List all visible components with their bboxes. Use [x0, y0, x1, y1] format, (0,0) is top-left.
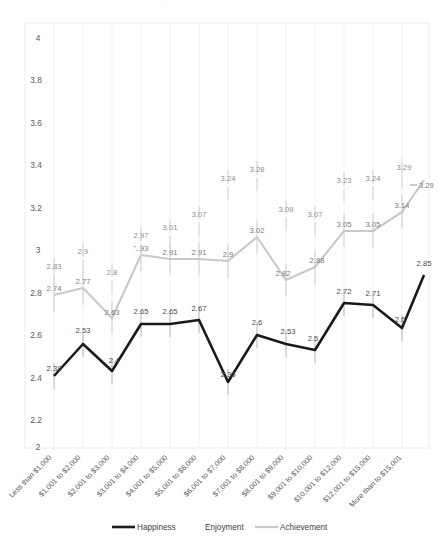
happiness-label-12: 2.6: [395, 315, 406, 324]
happiness-label-8: 2.53: [281, 327, 296, 336]
happiness-label-4: 2.65: [163, 307, 178, 316]
happiness-label-9: 2.5: [308, 334, 319, 343]
y-tick-3-8: 3.8: [30, 75, 42, 85]
y-tick-2: 2: [36, 442, 41, 452]
plot-area: [25, 23, 429, 448]
y-tick-4: 4: [36, 33, 41, 43]
achievement-label-2: 2.63: [105, 308, 120, 317]
happiness-label-5: 2.67: [192, 304, 207, 313]
x-axis-labels: Less than $1,000 $1,001 to $2,000 $2,001…: [7, 453, 403, 509]
achievement-label-1: 2.77: [76, 277, 91, 286]
enjoyment-label-8: 3.09: [279, 205, 294, 214]
achievement-label-13: 3.29: [419, 181, 434, 190]
happiness-label-1: 2.53: [76, 326, 91, 335]
achievement-label-8: 2.82: [276, 269, 291, 278]
y-tick-2-4: 2.4: [30, 373, 42, 383]
y-tick-3-2: 3.2: [30, 203, 42, 213]
achievement-label-5: 2.91: [192, 248, 207, 257]
y-tick-3: 3: [36, 245, 41, 255]
happiness-label-11: 2.71: [366, 289, 381, 298]
happiness-label-6: 2.35: [221, 370, 236, 379]
happiness-label-3: 2.65: [134, 307, 149, 316]
enjoyment-label-4: 3.01: [163, 223, 178, 232]
chart-legend: Happiness Enjoyment Achievement: [112, 523, 328, 532]
achievement-label-7: 3.02: [250, 226, 265, 235]
enjoyment-label-5: 3.07: [192, 210, 207, 219]
y-tick-3-4: 3.4: [30, 160, 42, 170]
enjoyment-label-0: 2.83: [47, 262, 62, 271]
happiness-label-7: 2.6: [252, 318, 263, 327]
happiness-label-13: 2.85: [417, 259, 432, 268]
achievement-label-4: 2.91: [163, 248, 178, 257]
y-tick-2-8: 2.8: [30, 288, 42, 298]
y-tick-2-6: 2.6: [30, 330, 42, 340]
enjoyment-label-10: 3.23: [337, 176, 352, 185]
enjoyment-label-12: 3.29: [397, 163, 412, 172]
legend-label-enjoyment[interactable]: Enjoyment: [205, 523, 244, 532]
happiness-label-2: 2.4: [109, 356, 120, 365]
chart-figure: 4 3.8 3.6 3.4 3.2 3 2.8 2.6 2.4 2.2 2: [0, 0, 444, 555]
enjoyment-label-3: 2.97: [134, 231, 149, 240]
enjoyment-label-1: 2.9: [78, 247, 89, 256]
enjoyment-label-7: 3.28: [250, 165, 265, 174]
enjoyment-label-11: 3.24: [366, 174, 381, 183]
achievement-label-6: 2.9: [223, 250, 234, 259]
legend-label-happiness[interactable]: Happiness: [137, 523, 176, 532]
enjoyment-label-2: 2.8: [107, 268, 118, 277]
achievement-label-12: 3.14: [395, 201, 410, 210]
happiness-label-0: 2.38: [47, 364, 62, 373]
achievement-label-11: 3.05: [366, 220, 381, 229]
y-tick-2-2: 2.2: [30, 415, 42, 425]
achievement-label-9: 2.88: [310, 256, 325, 265]
x-label-12: More than to $15,001: [347, 453, 403, 509]
achievement-label-10: 3.05: [337, 220, 352, 229]
enjoyment-label-9: 3.07: [308, 210, 323, 219]
legend-label-achievement[interactable]: Achievement: [280, 523, 328, 532]
y-tick-3-6: 3.6: [30, 118, 42, 128]
enjoyment-label-6: 3.24: [221, 174, 236, 183]
happiness-label-10: 2.72: [337, 287, 352, 296]
